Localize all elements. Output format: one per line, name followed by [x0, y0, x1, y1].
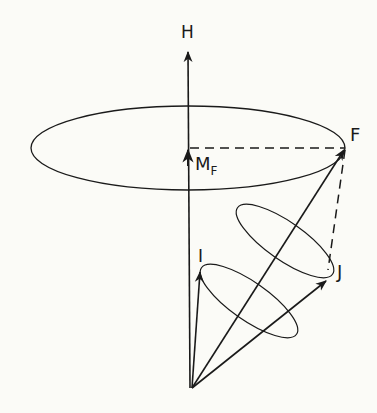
j-vector-arrow	[192, 281, 326, 388]
vector-coupling-diagram: H MF F J I	[0, 0, 377, 413]
f-j-dashed	[328, 150, 345, 270]
i-label: I	[198, 246, 203, 266]
h-label: H	[181, 22, 194, 42]
h-axis-arrow	[188, 52, 190, 388]
f-vector-arrow	[192, 150, 344, 388]
mf-label: MF	[195, 153, 218, 178]
f-label: F	[350, 124, 360, 145]
i-vector-arrow	[192, 272, 200, 388]
j-label: J	[336, 261, 342, 282]
